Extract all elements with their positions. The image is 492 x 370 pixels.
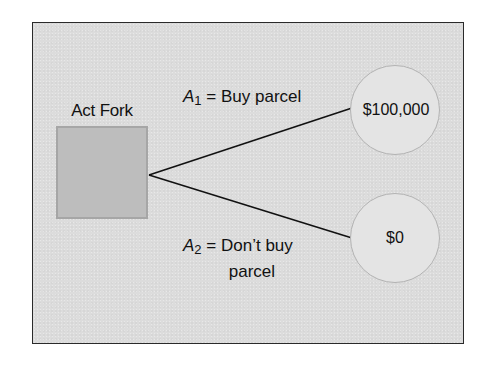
outcome-value: $0	[386, 229, 404, 247]
branch-variable: A	[183, 87, 194, 106]
decision-node-label: Act Fork	[56, 101, 148, 121]
equals-sign: =	[206, 87, 216, 106]
diagram-canvas: Act Fork A1 = Buy parcel A2 = Don’t buy …	[0, 0, 492, 370]
branch-action-line1: Don’t buy	[221, 236, 293, 255]
branch-label-a1: A1 = Buy parcel	[183, 86, 301, 112]
branch-subscript: 1	[194, 93, 201, 108]
branch-action-line2: parcel	[183, 261, 293, 283]
outcome-node-a1: $100,000	[350, 65, 440, 155]
branch-action: Buy parcel	[221, 87, 301, 106]
branch-subscript: 2	[194, 242, 201, 257]
branch-variable: A	[183, 236, 194, 255]
branch-label-a2: A2 = Don’t buy parcel	[183, 235, 293, 283]
outcome-value: $100,000	[363, 101, 430, 119]
equals-sign: =	[206, 236, 216, 255]
decision-node-square	[56, 126, 148, 219]
outcome-node-a2: $0	[350, 193, 440, 283]
